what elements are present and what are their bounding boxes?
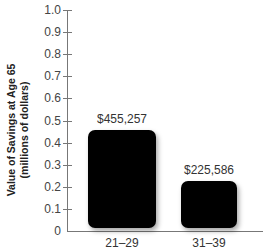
y-axis-label-line1: Value of Savings at Age 65 [5, 55, 18, 205]
y-tick-label: 0.6 [44, 92, 61, 104]
y-tick [63, 10, 72, 11]
y-tick-label: 0.4 [44, 137, 61, 149]
bar-value-label: $225,586 [164, 163, 254, 177]
y-tick-label: 1.0 [44, 4, 61, 16]
x-category-label: 31–39 [174, 236, 244, 250]
y-tick [63, 98, 72, 99]
y-tick [63, 76, 72, 77]
bar-31–39 [181, 181, 237, 228]
y-tick-label: 0.2 [44, 181, 61, 193]
x-axis [67, 231, 263, 232]
y-tick-label: 0 [54, 225, 61, 237]
bar-value-label: $455,257 [77, 112, 167, 126]
y-axis-label-line2: (millions of dollars) [18, 55, 31, 205]
y-tick [63, 32, 72, 33]
y-tick-label: 0.1 [44, 203, 61, 215]
x-category-label: 21–29 [87, 236, 157, 250]
y-tick [63, 121, 72, 122]
y-tick-label: 0.8 [44, 48, 61, 60]
bar-21–29 [88, 130, 156, 228]
y-tick [63, 143, 72, 144]
y-tick-label: 0.5 [44, 115, 61, 127]
y-tick [63, 209, 72, 210]
y-tick-label: 0.9 [44, 26, 61, 38]
y-tick-label: 0.3 [44, 159, 61, 171]
y-tick [63, 54, 72, 55]
y-tick-label: 0.7 [44, 70, 61, 82]
y-tick [63, 165, 72, 166]
y-tick [63, 187, 72, 188]
y-axis-label: Value of Savings at Age 65 (millions of … [5, 55, 41, 205]
